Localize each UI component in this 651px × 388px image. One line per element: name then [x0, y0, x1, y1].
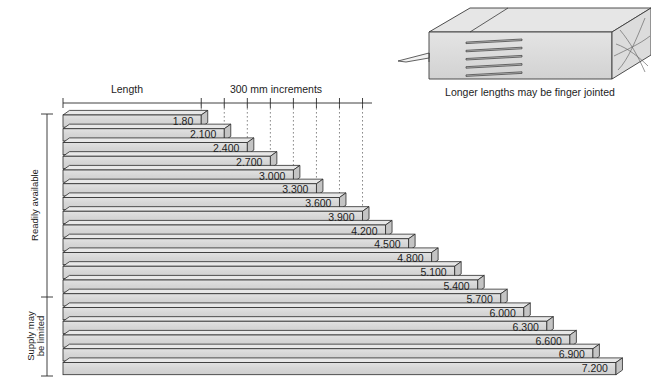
bar-length-label: 7.200 [582, 362, 608, 374]
bracket-label-readily-available: Readily available [29, 169, 40, 241]
bar-length-label: 1.80 [173, 115, 194, 127]
length-header-label: Length [111, 83, 143, 95]
bar-top-face [63, 330, 576, 335]
finger-joint-caption: Longer lengths may be finger jointed [445, 86, 615, 98]
finger-joint-illustration: Longer lengths may be finger jointed [398, 8, 651, 98]
bar-length-label: 3.000 [259, 170, 285, 182]
bar-length-label: 5.400 [443, 280, 469, 292]
bar-length-label: 4.500 [374, 238, 400, 250]
bar-top-face [63, 303, 530, 308]
bar-length-label: 2.100 [190, 128, 216, 140]
bar-length-label: 4.200 [351, 225, 377, 237]
bar-length-label: 2.700 [236, 156, 262, 168]
bar-length-label: 6.000 [490, 307, 516, 319]
bar-length-label: 5.100 [420, 266, 446, 278]
bar-front-face [63, 363, 616, 375]
timber-length-diagram: Length 300 mm increments Readily availab… [0, 0, 651, 388]
bar-length-label: 6.600 [536, 335, 562, 347]
bar-row [63, 358, 622, 375]
bar-length-label: 6.300 [513, 321, 539, 333]
top-ruler-axis [63, 98, 372, 108]
bracket-label-supply-limited-line2: be limited [35, 316, 46, 357]
bar-top-face [63, 289, 507, 294]
increments-header-label: 300 mm increments [230, 83, 322, 95]
bar-top-face [63, 344, 599, 349]
bar-length-label: 3.900 [328, 211, 354, 223]
bar-top-face [63, 317, 553, 322]
bar-length-label: 3.300 [282, 183, 308, 195]
availability-bracket-group: Readily available Supply may be limited [25, 114, 53, 376]
diagram-canvas: Length 300 mm increments Readily availab… [0, 0, 651, 388]
bar-length-label: 5.700 [466, 293, 492, 305]
bar-length-label: 4.800 [397, 252, 423, 264]
bar-length-label: 6.900 [559, 348, 585, 360]
bar-length-label: 3.600 [305, 197, 331, 209]
bar-length-label: 2.400 [213, 142, 239, 154]
bar-top-face [63, 358, 622, 363]
